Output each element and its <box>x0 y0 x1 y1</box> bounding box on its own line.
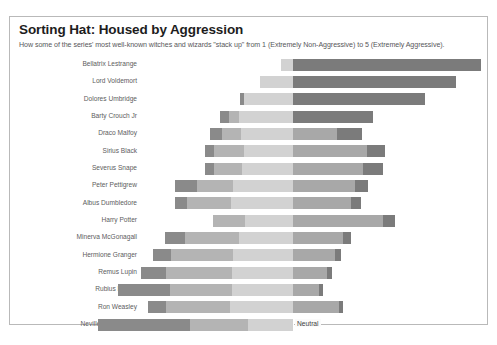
bar-segment-level-1 <box>153 249 171 261</box>
bar-segment-level-3 <box>242 163 293 175</box>
bar-segment-level-1 <box>175 180 197 192</box>
bar-segment-level-3 <box>231 197 293 209</box>
bar-segment-level-4 <box>293 180 355 192</box>
bar-row: Rubius Hagrid <box>10 281 489 298</box>
bar-row: Bellatrix Lestrange <box>10 56 489 73</box>
stacked-bar <box>10 232 489 244</box>
stacked-bar <box>10 215 489 227</box>
bar-segment-level-5 <box>337 128 362 140</box>
plot-area: Bellatrix LestrangeLord VoldemortDolores… <box>10 56 489 325</box>
bar-segment-level-5 <box>293 111 373 123</box>
stacked-bar <box>10 301 489 313</box>
bar-segment-level-5 <box>367 145 385 157</box>
bar-row: Albus Dumbledore <box>10 195 489 212</box>
bar-row: Dolores Umbridge <box>10 91 489 108</box>
bar-segment-level-4 <box>293 128 337 140</box>
bar-segment-level-4 <box>293 197 351 209</box>
bar-segment-level-1 <box>205 163 214 175</box>
stacked-bar <box>10 93 489 105</box>
chart-panel: Sorting Hat: Housed by Aggression How so… <box>9 16 488 325</box>
bar-segment-level-3 <box>248 319 293 331</box>
bar-segment-level-2 <box>214 163 242 175</box>
chart-footnote <box>28 336 488 345</box>
stacked-bar <box>10 284 489 296</box>
bar-segment-level-5 <box>339 301 343 313</box>
bar-segment-level-4 <box>293 145 367 157</box>
bar-segment-level-5 <box>363 163 383 175</box>
stacked-bar <box>10 145 489 157</box>
bar-segment-level-3 <box>230 301 293 313</box>
bar-segment-level-5 <box>327 267 332 279</box>
bar-row: Lord Voldemort <box>10 73 489 90</box>
bar-segment-level-1 <box>205 145 214 157</box>
bar-segment-level-1 <box>118 284 170 296</box>
bar-segment-level-2 <box>222 128 241 140</box>
bar-segment-level-2 <box>170 284 232 296</box>
bar-row: Barty Crouch Jr <box>10 108 489 125</box>
bar-row: Minerva McGonagall <box>10 229 489 246</box>
bar-segment-level-2 <box>197 180 233 192</box>
stacked-bar <box>10 267 489 279</box>
bar-segment-level-3 <box>241 128 293 140</box>
bar-segment-level-3 <box>232 284 293 296</box>
page-title: Sorting Hat: Housed by Aggression <box>19 22 243 37</box>
bar-segment-level-3 <box>244 93 293 105</box>
bar-segment-level-3 <box>233 249 293 261</box>
bar-row: Sirius Black <box>10 143 489 160</box>
bar-segment-level-2 <box>166 301 230 313</box>
bar-segment-level-2 <box>229 111 239 123</box>
bar-segment-level-2 <box>185 232 239 244</box>
stacked-bar <box>10 249 489 261</box>
bar-row: Harry Potter <box>10 212 489 229</box>
bar-segment-level-5 <box>293 93 425 105</box>
bar-segment-level-3 <box>245 215 293 227</box>
bar-segment-level-3 <box>281 59 293 71</box>
bar-segment-level-1 <box>165 232 185 244</box>
bar-segment-level-3 <box>239 111 293 123</box>
bar-segment-level-1 <box>98 319 190 331</box>
bar-segment-level-2 <box>166 267 232 279</box>
bar-segment-level-5 <box>351 197 361 209</box>
stacked-bar <box>10 76 489 88</box>
bar-segment-level-4 <box>293 301 339 313</box>
stacked-bar <box>10 197 489 209</box>
bar-segment-level-4 <box>293 267 327 279</box>
bar-segment-level-5 <box>355 180 368 192</box>
bar-segment-level-1 <box>148 301 166 313</box>
bar-segment-level-2 <box>187 197 231 209</box>
bar-segment-level-5 <box>383 215 395 227</box>
bar-segment-level-5 <box>293 59 481 71</box>
stacked-bar <box>10 111 489 123</box>
bar-segment-level-1 <box>210 128 222 140</box>
bar-segment-level-3 <box>244 145 293 157</box>
bar-segment-level-5 <box>293 76 456 88</box>
stacked-bar <box>10 59 489 71</box>
bar-segment-level-1 <box>220 111 229 123</box>
bar-segment-level-2 <box>214 145 244 157</box>
neutral-annotation: Neutral <box>295 319 321 327</box>
stacked-bar <box>10 163 489 175</box>
bar-segment-level-4 <box>293 284 319 296</box>
stacked-bar <box>10 180 489 192</box>
chart-subtitle: How some of the series' most well-known … <box>19 41 445 49</box>
stacked-bar <box>10 128 489 140</box>
bar-segment-level-5 <box>335 249 341 261</box>
bar-segment-level-3 <box>239 232 293 244</box>
bar-row: Hermione Granger <box>10 247 489 264</box>
bar-segment-level-4 <box>293 163 363 175</box>
bar-row: Neville Longbottom <box>10 316 489 333</box>
stacked-bar <box>10 319 489 331</box>
bar-segment-level-4 <box>293 249 335 261</box>
bar-row: Remus Lupin <box>10 264 489 281</box>
bar-segment-level-2 <box>190 319 248 331</box>
bar-segment-level-1 <box>141 267 166 279</box>
bar-segment-level-2 <box>171 249 233 261</box>
bar-segment-level-3 <box>260 76 293 88</box>
bar-segment-level-1 <box>175 197 187 209</box>
bar-row: Draco Malfoy <box>10 125 489 142</box>
bar-segment-level-5 <box>319 284 323 296</box>
bar-row: Peter Pettigrew <box>10 177 489 194</box>
bar-segment-level-4 <box>293 232 343 244</box>
bar-segment-level-4 <box>293 215 383 227</box>
bar-segment-level-5 <box>343 232 351 244</box>
